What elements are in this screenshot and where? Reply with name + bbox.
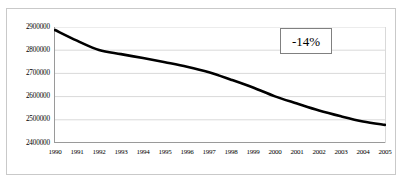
annotation-label: -14% xyxy=(292,35,320,48)
x-axis-labels: 1990199119921993199419951996199719981999… xyxy=(54,148,386,160)
y-axis-tick-label: 2400000 xyxy=(6,140,50,147)
axis-lines xyxy=(54,27,386,143)
y-axis-tick-label: 2600000 xyxy=(6,93,50,100)
annotation-callout-box: -14% xyxy=(280,28,332,54)
y-axis-tick-label: 2700000 xyxy=(6,70,50,77)
gridlines xyxy=(54,27,386,143)
plot-area xyxy=(54,27,386,143)
chart-container: 2900000 2800000 2700000 2600000 2500000 … xyxy=(0,0,402,184)
y-axis-tick-label: 2800000 xyxy=(6,47,50,54)
y-axis-tick-label: 2900000 xyxy=(6,24,50,31)
x-axis-tick-label: 2005 xyxy=(370,148,400,157)
y-axis-tick-label: 2500000 xyxy=(6,116,50,123)
data-series-line xyxy=(55,30,385,125)
chart-plot-svg xyxy=(54,27,386,143)
